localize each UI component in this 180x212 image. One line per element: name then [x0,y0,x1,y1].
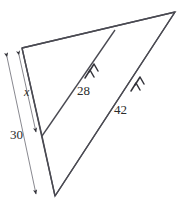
dimension-30-label: 30 [10,128,23,141]
dimension-x-label: x [24,86,29,98]
left-side [22,48,55,196]
geometry-diagram-canvas [0,0,180,212]
segment-42-label: 42 [114,103,127,116]
dimension-line-30 [7,57,36,194]
top-edge [22,12,175,48]
geometry-figure: 28 42 30 x [0,0,180,212]
outer-triangle-path [22,12,175,196]
outer-triangle [22,12,175,196]
dimension-30-line [7,57,36,194]
left-side-path [22,48,55,196]
segment-42-chevron-2 [135,77,144,85]
top-edge-path [22,12,175,48]
segment-28-label: 28 [77,84,90,97]
